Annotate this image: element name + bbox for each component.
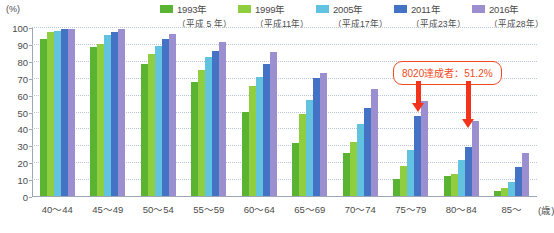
bar [47, 32, 54, 196]
bar [421, 101, 428, 196]
bar [444, 176, 451, 196]
x-tick-label: 60〜64 [234, 202, 285, 216]
bar [118, 29, 125, 196]
chart-legend: 1993年（平成 5 年）1999年（平成11年）2005年（平成17年）201… [160, 2, 550, 29]
bar [111, 32, 118, 196]
bar [371, 89, 378, 196]
bar [162, 39, 169, 196]
bar [522, 153, 529, 196]
y-axis-unit-label: (%) [6, 4, 20, 14]
plot-area: 0102030405060708090100 40〜4445〜4950〜5455… [32, 27, 537, 196]
bar [242, 112, 249, 196]
legend-year-label: 1993年 [177, 2, 207, 16]
bar-group-50-54: 50〜54 [133, 27, 184, 196]
bar [494, 191, 501, 196]
legend-item-1999: 1999年（平成11年） [238, 2, 316, 29]
legend-swatch-icon [472, 5, 485, 13]
x-tick-label: 65〜69 [285, 202, 336, 216]
bar [299, 114, 306, 196]
legend-year-label: 1999年 [255, 2, 285, 16]
bar-group-60-64: 60〜64 [234, 27, 285, 196]
bar [148, 54, 155, 196]
bar [472, 121, 479, 196]
y-tick-mark-0 [29, 197, 32, 198]
bar [270, 52, 277, 196]
legend-swatch-icon [238, 5, 251, 13]
bar-group-75-79: 75〜79 [386, 27, 437, 196]
bar [263, 64, 270, 196]
bar-group-85-: 85〜 [487, 27, 538, 196]
legend-item-2011: 2011年（平成23年） [394, 2, 472, 29]
bar [414, 116, 421, 196]
bar [320, 73, 327, 196]
x-axis-unit-label: (歳) [538, 203, 554, 217]
legend-item-2016: 2016年（平成28年） [472, 2, 550, 29]
bar [306, 100, 313, 196]
bar [501, 188, 508, 196]
bar [357, 124, 364, 197]
bar [68, 29, 75, 196]
bar [364, 108, 371, 196]
x-tick-label: 70〜74 [335, 202, 386, 216]
x-tick-label: 85〜 [487, 202, 538, 216]
bar [393, 179, 400, 196]
bar [90, 47, 97, 196]
bar-group-65-69: 65〜69 [285, 27, 336, 196]
bar [40, 39, 47, 196]
bar [198, 70, 205, 196]
bar [400, 166, 407, 196]
bar-group-40-44: 40〜44 [32, 27, 83, 196]
bar [212, 51, 219, 196]
bar [141, 64, 148, 196]
x-tick-label: 55〜59 [184, 202, 235, 216]
legend-year-label: 2016年 [489, 2, 519, 16]
bar [61, 29, 68, 196]
footnote-strip [0, 225, 551, 233]
x-tick-label: 45〜49 [83, 202, 134, 216]
bar [256, 77, 263, 196]
bar-group-55-59: 55〜59 [184, 27, 235, 196]
x-tick-label: 75〜79 [386, 202, 437, 216]
x-tick-label: 40〜44 [32, 202, 83, 216]
bar [458, 160, 465, 196]
legend-year-label: 2005年 [333, 2, 363, 16]
x-tick-label: 50〜54 [133, 202, 184, 216]
bar [292, 143, 299, 196]
annotation-callout: 8020達成者：51.2% [393, 61, 502, 85]
bar [407, 150, 414, 196]
bar [169, 34, 176, 196]
bar-groups: 40〜4445〜4950〜5455〜5960〜6465〜6970〜7475〜79… [32, 27, 537, 196]
bar [97, 44, 104, 196]
bar [205, 57, 212, 196]
bar [219, 42, 226, 196]
bar [350, 142, 357, 196]
bar-group-70-74: 70〜74 [335, 27, 386, 196]
bar [515, 167, 522, 196]
bar [465, 147, 472, 196]
bar [104, 35, 111, 196]
legend-swatch-icon [394, 5, 407, 13]
bar [155, 46, 162, 196]
gridline-0: 0 [32, 196, 537, 197]
bar [249, 86, 256, 196]
legend-year-label: 2011年 [411, 2, 440, 16]
bar-group-45-49: 45〜49 [83, 27, 134, 196]
bar [451, 174, 458, 196]
x-tick-label: 80〜84 [436, 202, 487, 216]
legend-swatch-icon [316, 5, 329, 13]
legend-item-1993: 1993年（平成 5 年） [160, 2, 238, 29]
bar [191, 82, 198, 196]
bar [343, 153, 350, 196]
legend-swatch-icon [160, 5, 173, 13]
bar [313, 78, 320, 196]
bar [54, 31, 61, 196]
bar-group-80-84: 80〜84 [436, 27, 487, 196]
legend-item-2005: 2005年（平成17年） [316, 2, 394, 29]
bar [508, 182, 515, 196]
